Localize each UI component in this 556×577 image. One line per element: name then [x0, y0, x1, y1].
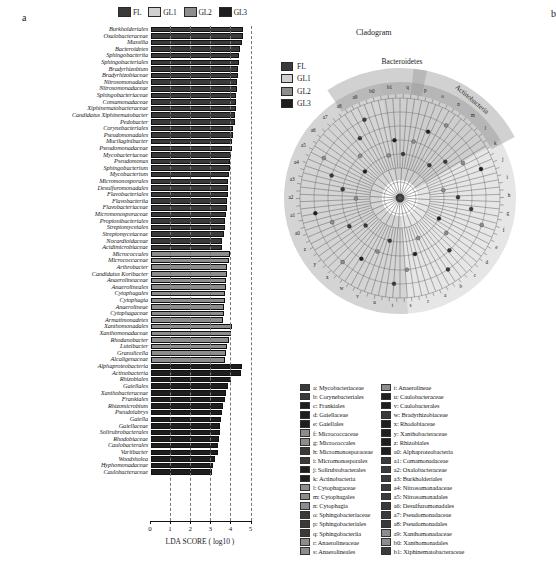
x-axis-tick — [210, 521, 211, 524]
taxon-key-label: w: Bradyrhizobiaceae — [394, 411, 448, 418]
taxon-key-swatch — [300, 457, 310, 465]
clado-node — [375, 249, 379, 253]
taxon-key-swatch — [381, 502, 391, 510]
taxon-key-label: p: Sphingobacteriales — [313, 520, 366, 527]
legend-swatch-fl — [118, 7, 131, 17]
clado-node-label: a4 — [294, 159, 299, 165]
clado-node — [456, 195, 460, 199]
taxon-key-label: a: Mycobacteriaceae — [313, 384, 364, 391]
taxon-key-swatch — [381, 547, 391, 555]
bar-row-label: Caulobacteraceae — [0, 469, 151, 476]
taxon-key-row: a7: Pseudomonadaceae — [381, 510, 464, 519]
clado-node-label: n — [457, 101, 460, 107]
legend-groups: FLGL1GL2GL3 — [118, 7, 247, 17]
clado-node-label: j — [501, 156, 503, 162]
cladogram-svg: BacteroidetesActinobacteriaqponmlkjihgfe… — [276, 30, 534, 375]
legend-item-fl: FL — [118, 7, 141, 17]
clado-node — [444, 123, 448, 127]
bar — [151, 311, 225, 317]
bar — [151, 60, 240, 66]
bar — [151, 264, 228, 270]
bar — [151, 456, 215, 462]
bar — [151, 218, 226, 224]
clado-node-label: k — [494, 140, 497, 146]
taxon-key-label: i: Micromonosporales — [313, 457, 367, 464]
bar — [151, 212, 227, 218]
taxon-key-legend: a: Mycobacteriaceaeb: Corynebacterialesc… — [300, 383, 533, 556]
clado-node-label: a9 — [352, 94, 357, 100]
taxon-key-row: a4: Nitrosomonadaceae — [381, 483, 464, 492]
legend-swatch-gl3 — [219, 7, 232, 17]
taxon-key-label: a4: Nitrosomonadaceae — [394, 484, 452, 491]
bar — [151, 66, 239, 72]
taxon-key-label: t: Anaerolineae — [394, 384, 431, 391]
taxon-key-row: b0: Xanthomonadales — [381, 538, 464, 547]
taxon-key-label: s: Anaerolineales — [313, 548, 355, 555]
clado-node-label: a7 — [323, 114, 328, 120]
taxon-key-swatch — [381, 538, 391, 546]
taxon-key-swatch — [381, 384, 391, 392]
clado-node — [461, 161, 465, 165]
bar — [151, 410, 223, 416]
legend-item-gl2: GL2 — [184, 7, 212, 17]
bar — [151, 53, 240, 59]
legend-swatch-gl1 — [148, 7, 161, 17]
clado-node — [359, 257, 363, 261]
taxon-key-row: b: Corynebacteriales — [300, 392, 373, 401]
x-axis-tick-label: 5 — [249, 525, 253, 533]
taxon-key-label: a6: Desulfuromonadales — [394, 502, 454, 509]
bar — [151, 192, 228, 198]
clado-node — [330, 220, 334, 224]
clado-node — [427, 163, 431, 167]
bar — [151, 298, 225, 304]
x-axis-tick — [150, 521, 151, 524]
clado-node — [444, 231, 448, 235]
bar — [151, 33, 243, 39]
clado-node-label: Bacteroidetes — [382, 57, 423, 66]
bar — [151, 284, 226, 290]
gridline — [190, 26, 191, 521]
x-axis-tick-label: 0 — [148, 525, 152, 533]
taxon-key-label: g: Micrococcales — [313, 439, 355, 446]
legend-label-gl2: GL2 — [199, 8, 212, 17]
gridline — [210, 26, 211, 521]
taxon-key-swatch — [381, 466, 391, 474]
legend-label-gl3: GL3 — [234, 8, 247, 17]
x-axis-tick-label: 4 — [229, 525, 233, 533]
taxon-key-label: k: Actinobacteria — [313, 475, 355, 482]
taxon-key-label: y: Xanthobacteraceae — [394, 430, 447, 437]
taxon-key-row: p: Sphingobacteriales — [300, 519, 373, 528]
taxon-key-swatch — [381, 411, 391, 419]
taxon-key-swatch — [300, 466, 310, 474]
taxon-key-label: a8: Pseudomonadales — [394, 520, 447, 527]
bar-row: Caulobacteraceae — [0, 469, 268, 476]
panel-b-label: b — [551, 8, 556, 19]
clado-node — [358, 154, 362, 158]
bar — [151, 119, 235, 125]
taxon-key-column-left: a: Mycobacteriaceaeb: Corynebacterialesc… — [300, 383, 373, 556]
clado-node — [441, 188, 445, 192]
taxon-key-label: a9: Xanthomonadaceae — [394, 530, 452, 537]
taxon-key-row: y: Xanthobacteraceae — [381, 428, 464, 437]
taxon-key-row: k: Actinobacteria — [300, 474, 373, 483]
taxon-key-row: t: Anaerolineae — [381, 383, 464, 392]
clado-node-label: v — [356, 293, 359, 299]
taxon-key-column-right: t: Anaerolineaeu: Caulobacteraceaev: Cau… — [381, 383, 464, 556]
clado-node-label: r — [427, 298, 429, 304]
bar — [151, 304, 225, 310]
taxon-key-swatch — [300, 429, 310, 437]
taxon-key-swatch — [381, 457, 391, 465]
taxon-key-row: o: Sphingobacteriaceae — [300, 510, 373, 519]
taxon-key-row: r: Anaerolineaceae — [300, 538, 373, 547]
taxon-key-swatch — [300, 384, 310, 392]
taxon-key-row: v: Caulobacterales — [381, 401, 464, 410]
bar — [151, 99, 236, 105]
x-axis-tick-label: 3 — [209, 525, 213, 533]
legend-label-fl: FL — [133, 8, 141, 17]
clado-node — [412, 140, 416, 144]
clado-node-label: a2 — [289, 194, 294, 200]
bar — [151, 463, 214, 469]
bar — [151, 86, 237, 92]
taxon-key-label: e: Gaiellales — [313, 420, 343, 427]
taxon-key-row: a0: Alphaproteobacteria — [381, 447, 464, 456]
